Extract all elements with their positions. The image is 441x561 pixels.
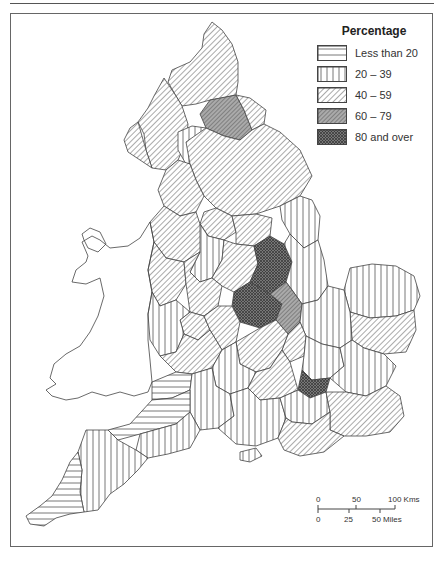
legend-item-20-39: 20 – 39 [317, 63, 437, 84]
legend-item-80-and-over: 80 and over [317, 126, 437, 147]
legend-item-less-than-20: Less than 20 [317, 42, 437, 63]
legend: Percentage Less than 20 20 – 39 40 – 59 … [317, 24, 437, 147]
legend-label: 40 – 59 [355, 89, 392, 101]
scale-mi-0: 0 [316, 515, 320, 524]
swatch-dense-diagonal-icon [317, 108, 347, 124]
legend-item-60-79: 60 – 79 [317, 105, 437, 126]
scale-mi-50: 50 Miles [372, 515, 402, 524]
scale-km-100: 100 Kms [388, 495, 420, 504]
swatch-vertical-lines-icon [317, 66, 347, 82]
swatch-crosshatch-dark-icon [317, 129, 347, 145]
swatch-diagonal-lines-icon [317, 87, 347, 103]
region-devon [78, 430, 148, 512]
swatch-horizontal-lines-icon [317, 45, 347, 61]
region-isle-of-wight [240, 448, 262, 462]
region-cornwall [26, 452, 84, 526]
region-northumberland [168, 22, 238, 106]
legend-label: 20 – 39 [355, 68, 392, 80]
legend-label: Less than 20 [355, 47, 418, 59]
wales-outline [46, 222, 154, 400]
legend-item-40-59: 40 – 59 [317, 84, 437, 105]
region-norfolk [344, 264, 420, 318]
scale-mi-25: 25 [344, 515, 353, 524]
scale-line [316, 504, 396, 514]
scale-km-0: 0 [316, 495, 320, 504]
scale-bar: 0 50 100 Kms 0 25 50 Miles [316, 495, 426, 535]
scale-km-50: 50 [352, 495, 361, 504]
legend-title: Percentage [311, 24, 437, 38]
legend-label: 80 and over [355, 131, 413, 143]
legend-label: 60 – 79 [355, 110, 392, 122]
